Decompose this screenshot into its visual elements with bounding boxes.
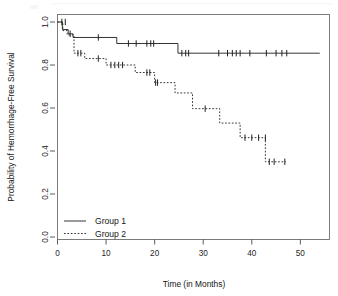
x-tick-label: 20 xyxy=(150,249,160,258)
y-axis-title: Probability of Hemorrhage-Free Survival xyxy=(6,52,16,202)
x-tick-label: 50 xyxy=(296,249,306,258)
y-tick-label: 0.6 xyxy=(41,102,50,114)
chart-background xyxy=(0,0,338,296)
kaplan-meier-chart: 01020304050 0.00.20.40.60.81.0 Time (in … xyxy=(0,0,338,296)
x-tick-label: 0 xyxy=(55,249,60,258)
y-tick-label: 1.0 xyxy=(41,16,50,28)
y-tick-label: 0.4 xyxy=(41,145,50,157)
survival-plot-figure: 01020304050 0.00.20.40.60.81.0 Time (in … xyxy=(0,0,338,296)
legend-label-group-2: Group 2 xyxy=(95,229,126,239)
y-tick-label: 0.2 xyxy=(41,188,50,200)
x-tick-label: 40 xyxy=(247,249,257,258)
x-tick-label: 10 xyxy=(102,249,112,258)
y-tick-label: 0.0 xyxy=(41,231,50,243)
x-axis-title: Time (in Months) xyxy=(163,279,226,289)
x-tick-label: 30 xyxy=(199,249,209,258)
y-tick-label: 0.8 xyxy=(41,59,50,71)
legend-label-group-1: Group 1 xyxy=(95,216,126,226)
